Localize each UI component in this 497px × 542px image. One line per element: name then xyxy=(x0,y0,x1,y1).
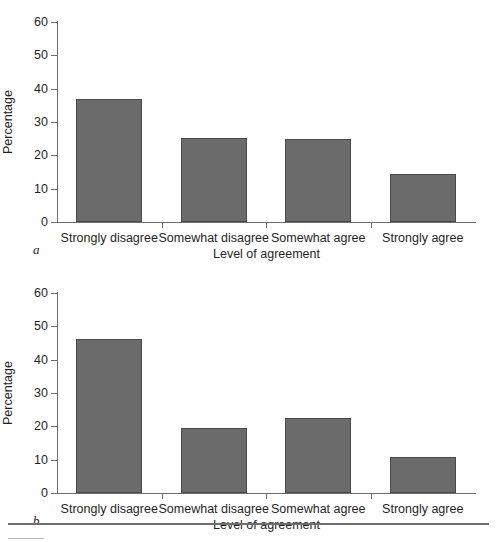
y-axis-tick-label: 10 xyxy=(34,453,48,466)
x-axis-tick xyxy=(162,493,163,499)
y-axis-tick xyxy=(51,326,57,327)
y-axis-tick-label: 0 xyxy=(41,487,48,500)
bar xyxy=(390,174,456,222)
y-axis-tick-label: 20 xyxy=(34,149,48,162)
y-axis-tick-label: 60 xyxy=(34,16,48,29)
bar xyxy=(390,457,456,493)
footer-divider-secondary xyxy=(8,538,44,539)
y-axis-tick-label: 40 xyxy=(34,353,48,366)
x-axis-category-label: Strongly disagree xyxy=(61,232,158,245)
y-axis-tick xyxy=(51,360,57,361)
chart-panel-b: 0102030405060Strongly disagreeSomewhat d… xyxy=(0,271,497,542)
figure: 0102030405060Strongly disagreeSomewhat d… xyxy=(0,0,497,542)
bar xyxy=(76,339,142,493)
panel-letter-a: a xyxy=(33,243,40,256)
y-axis-tick-label: 40 xyxy=(34,82,48,95)
y-axis-tick xyxy=(51,89,57,90)
bar xyxy=(285,418,351,493)
y-axis-tick xyxy=(51,22,57,23)
y-axis-tick-label: 20 xyxy=(34,420,48,433)
bar xyxy=(285,139,351,222)
y-axis-tick-label: 0 xyxy=(41,216,48,229)
panel-letter-b: b xyxy=(33,514,40,527)
x-axis-category-label: Somewhat disagree xyxy=(159,503,269,516)
x-axis-tick xyxy=(162,222,163,228)
y-axis-tick-label: 60 xyxy=(34,287,48,300)
y-axis-line-b xyxy=(57,292,58,493)
bar xyxy=(181,428,247,493)
x-axis-category-label: Strongly agree xyxy=(382,232,463,245)
y-axis-tick-label: 10 xyxy=(34,182,48,195)
y-axis-tick xyxy=(51,189,57,190)
x-axis-title-b: Level of agreement xyxy=(57,519,476,532)
x-axis-category-label: Somewhat agree xyxy=(271,503,366,516)
y-axis-tick xyxy=(51,493,57,494)
y-axis-tick xyxy=(51,55,57,56)
y-axis-title-a: Percentage xyxy=(2,90,15,154)
y-axis-tick xyxy=(51,393,57,394)
chart-panel-a: 0102030405060Strongly disagreeSomewhat d… xyxy=(0,0,497,271)
x-axis-title-a: Level of agreement xyxy=(57,248,476,261)
y-axis-tick-label: 50 xyxy=(34,320,48,333)
y-axis-tick xyxy=(51,426,57,427)
x-axis-category-label: Strongly agree xyxy=(382,503,463,516)
x-axis-category-label: Somewhat disagree xyxy=(159,232,269,245)
y-axis-tick-label: 30 xyxy=(34,387,48,400)
y-axis-title-b: Percentage xyxy=(2,361,15,425)
plot-area-a: 0102030405060Strongly disagreeSomewhat d… xyxy=(57,22,475,222)
x-axis-category-label: Somewhat agree xyxy=(271,232,366,245)
y-axis-tick-label: 30 xyxy=(34,116,48,129)
x-axis-tick xyxy=(266,493,267,499)
x-axis-tick xyxy=(371,493,372,499)
y-axis-tick-label: 50 xyxy=(34,49,48,62)
x-axis-category-label: Strongly disagree xyxy=(61,503,158,516)
bar xyxy=(76,99,142,222)
y-axis-tick xyxy=(51,155,57,156)
x-axis-tick xyxy=(371,222,372,228)
y-axis-tick xyxy=(51,293,57,294)
y-axis-tick xyxy=(51,460,57,461)
footer-divider xyxy=(8,523,489,525)
y-axis-tick xyxy=(51,122,57,123)
x-axis-tick xyxy=(266,222,267,228)
y-axis-line-a xyxy=(57,21,58,222)
plot-area-b: 0102030405060Strongly disagreeSomewhat d… xyxy=(57,293,475,493)
bar xyxy=(181,138,247,222)
y-axis-tick xyxy=(51,222,57,223)
